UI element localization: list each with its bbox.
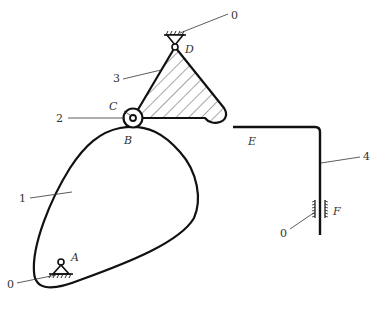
roller-2 (124, 109, 143, 128)
mechanism-diagram: 0 3 2 1 0 4 0 D C B E F A (0, 0, 382, 309)
label-point-d: D (184, 43, 194, 56)
label-point-c: C (109, 100, 118, 113)
label-point-f: F (332, 205, 341, 218)
cam-pivot-a (49, 259, 73, 278)
label-follower-4: 4 (363, 150, 370, 163)
top-pivot-d (164, 31, 186, 50)
label-link-3: 3 (113, 72, 120, 85)
label-ground-guide: 0 (280, 227, 287, 240)
follower-4 (233, 127, 320, 235)
label-point-a: A (70, 251, 79, 264)
label-cam-1: 1 (19, 192, 26, 205)
label-ground-cam: 0 (7, 278, 14, 291)
rocker-link-3 (133, 47, 226, 123)
label-point-e: E (247, 135, 256, 148)
label-point-b: B (123, 134, 132, 147)
label-ground-top: 0 (231, 9, 238, 22)
label-roller-2: 2 (56, 112, 63, 125)
